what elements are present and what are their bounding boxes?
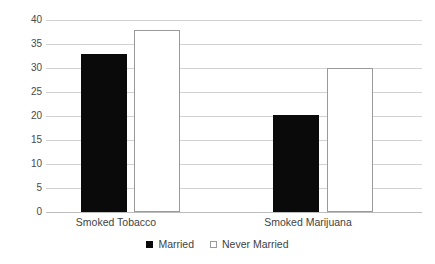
bar-married-smoked-marijuana: [273, 115, 319, 212]
y-axis-tick-label: 15: [12, 135, 42, 145]
y-axis-tick-label: 40: [12, 15, 42, 25]
bar-never-married-smoked-tobacco: [134, 30, 180, 212]
bar-married-smoked-tobacco: [81, 54, 127, 212]
y-axis-tick-label: 20: [12, 111, 42, 121]
y-axis-tick-label: 25: [12, 87, 42, 97]
bar-chart: 40 35 30 25 20 15 10 5 0 Smoked Tobacco …: [0, 0, 435, 264]
y-axis-tick-label: 10: [12, 159, 42, 169]
y-axis-tick-label: 35: [12, 39, 42, 49]
y-axis-tick-label: 30: [12, 63, 42, 73]
legend-swatch-filled-square-icon: [146, 241, 153, 248]
plot-area: [46, 20, 422, 212]
legend-swatch-hollow-square-icon: [210, 241, 217, 248]
x-axis-tick-label-smoked-tobacco: Smoked Tobacco: [31, 216, 201, 228]
gridline-35: [46, 44, 422, 45]
chart-legend: Married Never Married: [0, 238, 435, 250]
legend-label-never-married: Never Married: [222, 238, 289, 250]
bar-never-married-smoked-marijuana: [327, 68, 373, 212]
x-axis-tick-label-smoked-marijuana: Smoked Marijuana: [223, 216, 393, 228]
y-axis-tick-label: 5: [12, 183, 42, 193]
legend-entry-married[interactable]: Married: [146, 238, 194, 250]
legend-entry-never-married[interactable]: Never Married: [210, 238, 289, 250]
x-axis-line: [46, 212, 422, 213]
legend-label-married: Married: [158, 238, 194, 250]
y-axis-tick-labels: 40 35 30 25 20 15 10 5 0: [8, 20, 42, 212]
gridline-40: [46, 20, 422, 21]
